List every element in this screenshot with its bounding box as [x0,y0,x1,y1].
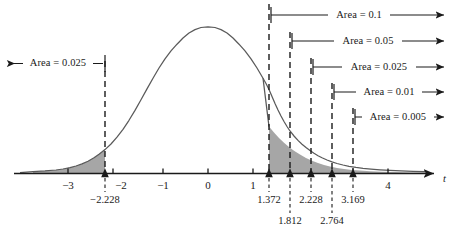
density-curve [20,27,269,173]
area-annotation-right-05: Area = 0.05 [342,36,393,47]
x-tick-label-minus3: −3 [62,180,74,191]
area-annotation-right-025: Area = 0.025 [351,62,407,73]
x-axis-symbol-label: t [443,174,446,185]
area-annotation-right-1: Area = 0.1 [336,10,382,21]
x-tick-label-zero: 0 [205,180,211,191]
value-label-2764: 2.764 [320,216,344,227]
area-annotation-right-01: Area = 0.01 [363,87,414,98]
x-tick-label-one: 1 [250,180,256,191]
value-label-3169: 3.169 [341,195,365,206]
shaded-region-left-tail [33,150,105,174]
critical-dashed-lines [105,4,353,170]
value-label-1372: 1.372 [257,195,281,206]
t-distribution-chart: −3 −2 −1 0 1 4 t −2.228 1.372 1.812 2.22… [0,0,454,239]
x-tick-label-four: 4 [385,180,391,191]
area-annotation-left-025: Area = 0.025 [30,58,86,69]
x-tick-label-minus1: −1 [157,180,169,191]
value-label-neg-2228: −2.228 [90,195,120,206]
value-label-2228: 2.228 [299,195,323,206]
x-tick-label-minus2: −2 [115,180,127,191]
area-annotation-right-005: Area = 0.005 [370,112,426,123]
value-label-1812: 1.812 [278,216,302,227]
